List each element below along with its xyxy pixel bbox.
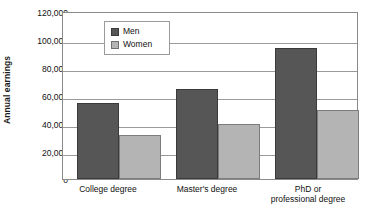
x-tick-line-1: College degree: [58, 184, 158, 194]
bar-chart: Annual earnings 120,000 100,000 80,000 6…: [0, 0, 369, 224]
bar-women-masters-degree: [218, 124, 260, 179]
men-color-swatch-icon: [111, 28, 119, 36]
legend-label-women: Women: [123, 40, 152, 49]
x-tick-line-1: PhD or: [256, 184, 360, 194]
x-tick-label-college-degree: College degree: [58, 184, 158, 194]
bar-men-masters-degree: [176, 89, 218, 179]
bar-women-college-degree: [119, 135, 161, 179]
y-tick-label-80000: 80,000: [10, 65, 68, 74]
bar-men-college-degree: [77, 103, 119, 179]
x-tick-label-phd-degree: PhD or professional degree: [256, 184, 360, 204]
x-tick-label-masters-degree: Master's degree: [157, 184, 257, 194]
legend-label-men: Men: [123, 27, 140, 36]
bar-men-phd-degree: [275, 48, 317, 179]
chart-legend: Men Women: [104, 21, 170, 55]
x-tick-line-2: professional degree: [256, 194, 360, 204]
women-color-swatch-icon: [111, 41, 119, 49]
legend-item-men: Men: [111, 25, 169, 38]
y-tick-label-100000: 100,000: [10, 37, 68, 46]
x-tick-line-1: Master's degree: [157, 184, 257, 194]
y-tick-label-40000: 40,000: [10, 121, 68, 130]
bar-women-phd-degree: [317, 110, 359, 179]
y-tick-label-20000: 20,000: [10, 149, 68, 158]
y-tick-label-120000: 120,000: [10, 9, 68, 18]
legend-item-women: Women: [111, 38, 169, 51]
y-tick-label-60000: 60,000: [10, 93, 68, 102]
